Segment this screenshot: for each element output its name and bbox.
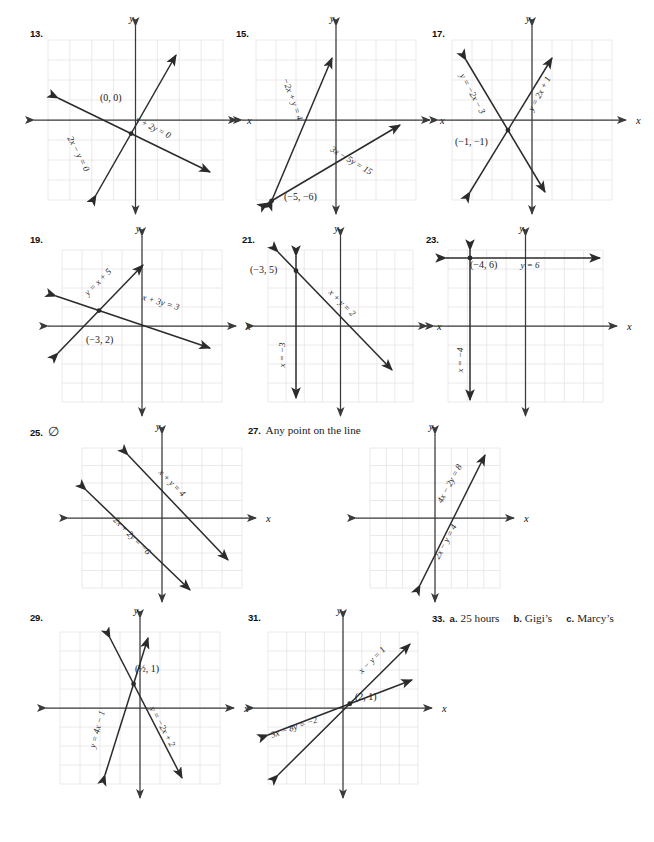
axes xyxy=(254,236,427,416)
intersection-point xyxy=(347,701,352,706)
answer-part-text: 25 hours xyxy=(461,612,500,624)
axes xyxy=(48,236,236,416)
y-axis-label: y xyxy=(525,14,531,24)
coordinate-graph: xyx − y = 13x − 8y = −2(2, 1) xyxy=(242,606,478,820)
y-axis-label: y xyxy=(155,422,161,432)
axes xyxy=(438,26,626,214)
line-equation-label: x = −3 xyxy=(277,342,287,369)
problem-number: 27. xyxy=(248,425,261,436)
intersection-point xyxy=(269,198,274,203)
x-axis-label: x xyxy=(635,115,641,126)
x-axis-label: x xyxy=(441,703,447,714)
coordinate-graph: xyy = −2x − 3y = 2x + 1(−1, −1) xyxy=(426,14,654,236)
answer-part-letter: c. xyxy=(566,613,574,624)
point-coordinate-label: (2, 1) xyxy=(355,691,377,703)
point-coordinate-label: (½, 1) xyxy=(135,663,159,675)
answer-part-text: Marcy’s xyxy=(577,612,614,624)
coordinate-graph: xy4x − 2y = 82x − y = 4 xyxy=(344,422,560,624)
plotted-line xyxy=(105,638,148,775)
problem-number: 33. xyxy=(432,613,445,624)
line-equation-label: 2x − y = 4 xyxy=(432,522,459,561)
point-coordinate-label: (−4, 6) xyxy=(470,259,497,271)
intersection-point xyxy=(506,128,511,133)
y-axis-label: y xyxy=(336,606,342,616)
y-axis-label: y xyxy=(128,14,134,24)
problem-33-header: 33.a.25 hoursb.Gigi’sc.Marcy’s xyxy=(432,612,623,624)
answer-part-text: Gigi’s xyxy=(525,612,552,624)
answer-part: a.25 hours xyxy=(450,612,500,624)
line-equation-label: x = −4 xyxy=(455,347,465,374)
graph-23: xyy = 6x = −4(−4, 6) xyxy=(422,224,654,438)
line-equation-label: x + y = 2 xyxy=(326,287,358,319)
line-equation-label: y = 6 xyxy=(519,260,540,270)
plotted-line xyxy=(278,644,410,775)
point-coordinate-label: (−1, −1) xyxy=(455,136,488,148)
x-axis-label: x xyxy=(265,513,271,524)
axes xyxy=(68,434,256,602)
line-equation-label: y = −2x + 2 xyxy=(147,704,177,749)
coordinate-graph: xyy = 6x = −4(−4, 6) xyxy=(422,224,654,438)
answer-part: c.Marcy’s xyxy=(566,612,614,624)
line-equation-label: −2x + y = 4 xyxy=(281,76,306,121)
y-axis-label: y xyxy=(428,422,434,432)
graph-25: xyx + y = 42x + 2y = −6 xyxy=(56,422,302,624)
problem-25-header: 25.∅ xyxy=(30,424,59,440)
answer-part-letter: a. xyxy=(450,613,458,624)
graph-31: xyx − y = 13x − 8y = −2(2, 1) xyxy=(242,606,478,820)
point-coordinate-label: (−3, 5) xyxy=(250,264,277,276)
y-axis-label: y xyxy=(133,606,139,616)
axes xyxy=(254,618,432,798)
line-equation-label: x + 3y = 3 xyxy=(140,292,181,313)
line-equation-label: 2x + 2y = −6 xyxy=(111,515,153,557)
line-equation-label: x + 2y = 0 xyxy=(133,114,173,141)
axes xyxy=(242,26,430,214)
intersection-point xyxy=(129,131,134,136)
point-coordinate-label: (−3, 2) xyxy=(86,334,113,346)
intersection-point xyxy=(131,681,136,686)
x-axis-label: x xyxy=(626,321,632,332)
y-axis-label: y xyxy=(333,224,339,234)
answer-key-page: 13.xy2x − y = 0x + 2y = 0(0, 0)15.xy−2x … xyxy=(0,0,654,842)
axes xyxy=(356,434,514,602)
line-equation-label: y = 4x − 1 xyxy=(87,710,107,750)
graph-17: xyy = −2x − 3y = 2x + 1(−1, −1) xyxy=(426,14,654,236)
line-equation-label: y = x + 5 xyxy=(82,266,114,298)
y-axis-label: y xyxy=(329,14,335,24)
graph-27: xy4x − 2y = 82x − y = 4 xyxy=(344,422,560,624)
problem-number: 25. xyxy=(30,427,43,438)
plotted-line xyxy=(470,58,552,192)
intersection-point xyxy=(97,308,102,313)
coordinate-graph: xyx + y = 42x + 2y = −6 xyxy=(56,422,302,624)
axes xyxy=(46,618,234,798)
point-coordinate-label: (0, 0) xyxy=(100,92,122,104)
line-equation-label: y = −2x − 3 xyxy=(457,71,487,116)
intersection-point xyxy=(294,268,299,273)
y-axis-label: y xyxy=(518,224,524,234)
x-axis-label: x xyxy=(523,513,529,524)
plotted-line xyxy=(56,296,210,348)
answer-part: b.Gigi’s xyxy=(513,612,552,624)
y-axis-label: y xyxy=(135,224,141,234)
point-coordinate-label: (−5, −6) xyxy=(284,191,317,203)
answer-part-letter: b. xyxy=(513,613,521,624)
